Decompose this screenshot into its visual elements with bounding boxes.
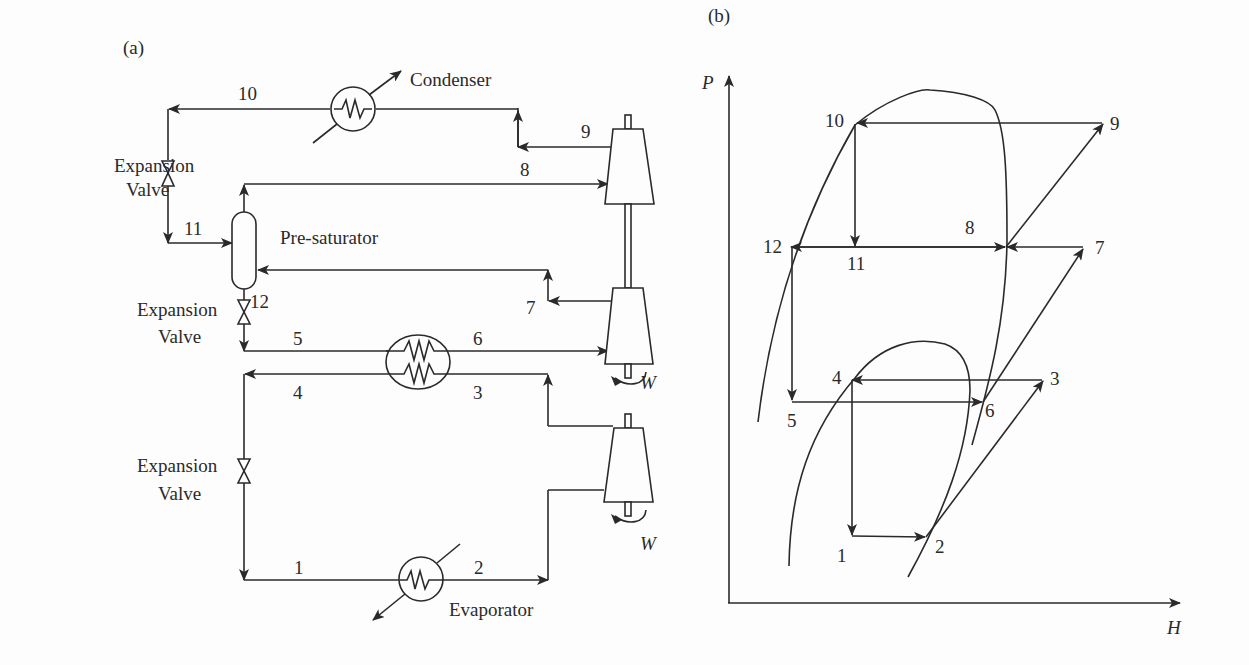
figure-canvas: (a) 10 Condenser Expansion Valve 11 Pre-… [0, 0, 1249, 665]
label-state-6: 6 [473, 328, 483, 349]
ph-label-8: 8 [965, 217, 975, 238]
evaporator-icon [373, 544, 460, 620]
cascade-heat-exchanger-icon [386, 335, 450, 389]
ph-label-2: 2 [935, 536, 945, 557]
valve-middle-label-line1: Expansion [137, 299, 218, 320]
evaporator-label: Evaporator [449, 599, 534, 620]
valve-middle-label-line2: Valve [158, 326, 201, 347]
high-stage-compressor-icon [605, 115, 654, 386]
panel-b-label: (b) [708, 5, 730, 27]
ph-label-12: 12 [763, 236, 782, 257]
ph-label-6: 6 [985, 400, 995, 421]
valve-bottom-label-line2: Valve [158, 483, 201, 504]
ph-label-4: 4 [832, 367, 842, 388]
p-axis-label: P [701, 72, 714, 93]
ph-label-7: 7 [1095, 237, 1105, 258]
panel-a-label: (a) [123, 37, 144, 59]
h-axis-label: H [1166, 617, 1182, 638]
label-state-7: 7 [526, 297, 536, 318]
ph-label-5: 5 [787, 410, 797, 431]
panel-b-ph-diagram: (b) P H 10 9 8 7 12 11 4 3 5 [701, 5, 1182, 638]
low-stage-compressor-icon [604, 414, 653, 524]
ph-label-3: 3 [1050, 368, 1060, 389]
process-1-2 [852, 536, 925, 537]
cascade-refrigeration-figure: (a) 10 Condenser Expansion Valve 11 Pre-… [0, 0, 1249, 665]
label-state-10: 10 [238, 83, 257, 104]
valve-bottom-label-line1: Expansion [137, 455, 218, 476]
presaturator-vessel-icon [232, 212, 256, 289]
valve-top-label-line2: Valve [126, 179, 169, 200]
presaturator-label: Pre-saturator [280, 227, 379, 248]
valve-top-label-line1: Expansion [114, 155, 195, 176]
label-state-1: 1 [294, 557, 304, 578]
work-label-high: W [640, 372, 658, 393]
expansion-valve-icon-bottom [238, 459, 250, 483]
label-state-9: 9 [581, 121, 591, 142]
expansion-valve-icon-middle [238, 300, 250, 324]
condenser-label: Condenser [410, 69, 492, 90]
process-8-9 [1006, 124, 1103, 247]
label-state-8: 8 [520, 159, 530, 180]
ph-label-11: 11 [847, 253, 865, 274]
label-state-11: 11 [184, 218, 202, 239]
condenser-icon [313, 71, 401, 143]
panel-a-schematic: (a) 10 Condenser Expansion Valve 11 Pre-… [114, 37, 658, 620]
label-state-3: 3 [473, 382, 483, 403]
label-state-2: 2 [474, 557, 484, 578]
work-label-low: W [640, 533, 658, 554]
ph-label-10: 10 [825, 110, 844, 131]
label-state-4: 4 [293, 382, 303, 403]
label-state-5: 5 [293, 328, 303, 349]
process-6-7 [983, 249, 1083, 402]
ph-label-9: 9 [1110, 113, 1120, 134]
label-state-12: 12 [250, 291, 269, 312]
ph-label-1: 1 [837, 545, 847, 566]
